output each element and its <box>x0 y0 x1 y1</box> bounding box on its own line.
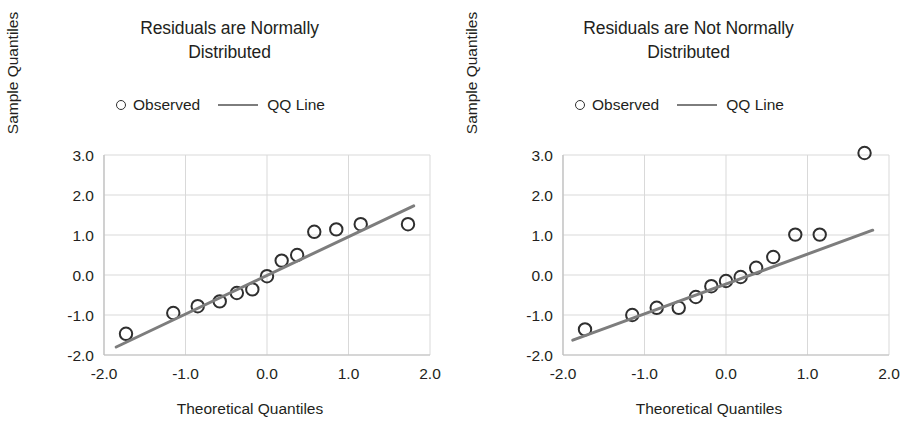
x-tick-label: 0.0 <box>256 365 278 382</box>
panel-right: Residuals are Not Normally Distributed O… <box>459 0 918 434</box>
qq-line <box>116 206 413 347</box>
y-tick-label: -1.0 <box>526 307 553 324</box>
x-tick-label: 0.0 <box>715 365 737 382</box>
qq-plot-figure: Residuals are Normally Distributed Obser… <box>0 0 918 434</box>
x-tick-label: -1.0 <box>631 365 658 382</box>
y-tick-label: 1.0 <box>531 227 553 244</box>
panel-left-svg: -2.0-1.00.01.02.03.0-2.0-1.00.01.02.0 <box>0 0 459 434</box>
data-point-observed <box>120 328 132 340</box>
x-tick-label: -2.0 <box>91 365 118 382</box>
data-point-observed <box>308 226 320 238</box>
y-tick-label: 1.0 <box>72 227 94 244</box>
x-tick-label: -2.0 <box>550 365 577 382</box>
panel-left-plot-area: Sample Quantiles Theoretical Quantiles -… <box>0 0 459 434</box>
panel-left: Residuals are Normally Distributed Obser… <box>0 0 459 434</box>
y-tick-label: -1.0 <box>67 307 94 324</box>
y-tick-label: 3.0 <box>531 147 553 164</box>
data-point-observed <box>402 218 414 230</box>
data-point-observed <box>858 147 870 159</box>
y-tick-label: -2.0 <box>526 347 553 364</box>
y-tick-label: 2.0 <box>72 187 94 204</box>
qq-line <box>573 230 873 340</box>
data-point-observed <box>330 223 342 235</box>
x-tick-label: 2.0 <box>419 365 441 382</box>
y-tick-label: -2.0 <box>67 347 94 364</box>
y-tick-label: 2.0 <box>531 187 553 204</box>
panel-right-plot-area: Sample Quantiles Theoretical Quantiles -… <box>459 0 918 434</box>
y-tick-label: 0.0 <box>531 267 553 284</box>
y-tick-label: 0.0 <box>72 267 94 284</box>
x-tick-label: 1.0 <box>338 365 360 382</box>
x-tick-label: 2.0 <box>878 365 900 382</box>
y-tick-label: 3.0 <box>72 147 94 164</box>
x-tick-label: -1.0 <box>172 365 199 382</box>
panel-right-svg: -2.0-1.00.01.02.03.0-2.0-1.00.01.02.0 <box>459 0 918 434</box>
x-tick-label: 1.0 <box>797 365 819 382</box>
data-point-observed <box>767 251 779 263</box>
